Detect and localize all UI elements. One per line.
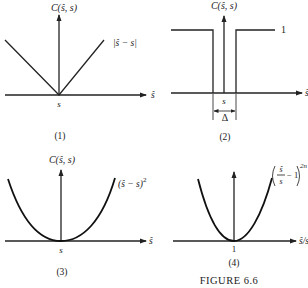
panel-label: (3): [56, 267, 67, 278]
x-tick-label: s: [59, 245, 63, 255]
step-right: [236, 30, 275, 93]
figure-caption: FIGURE 6.6: [200, 275, 259, 286]
panel-4: ŝ s − 1 2n ŝ/s 1 (4): [173, 162, 308, 269]
panel-label: (2): [219, 132, 230, 143]
curve-label: (ŝ − s)2: [118, 176, 147, 190]
y-axis-label: C(ŝ, s): [49, 154, 76, 166]
x-tick-label: s: [57, 99, 61, 109]
x-axis-label: ŝ/s: [299, 236, 308, 246]
panel-label: (4): [228, 258, 239, 269]
y-axis-label: C(ŝ, s): [51, 2, 78, 14]
minus-one: − 1: [287, 170, 298, 180]
x-axis-label: ŝ: [149, 236, 153, 246]
power-curve: [198, 178, 272, 241]
panel-label: (1): [54, 131, 65, 142]
left-paren: [273, 166, 276, 186]
panel-1: C(ŝ, s) |ŝ − s| ŝ s (1): [5, 2, 155, 142]
panel-3: C(ŝ, s) (ŝ − s)2 ŝ s (3): [5, 154, 153, 278]
abs-value-curve: [5, 40, 104, 95]
exponent: 2n: [300, 162, 308, 170]
figure-6-6: C(ŝ, s) |ŝ − s| ŝ s (1) C(ŝ, s) 1 ŝ s Δ …: [0, 0, 308, 288]
delta-label: Δ: [222, 112, 229, 123]
level-label: 1: [281, 24, 286, 35]
fraction-numerator: ŝ: [279, 165, 283, 174]
step-left: [171, 30, 213, 93]
curve-label: ŝ s − 1 2n: [273, 162, 308, 186]
x-tick-label: 1: [232, 244, 237, 254]
x-tick-label: s: [222, 96, 226, 106]
x-axis-label: ŝ: [305, 88, 308, 98]
fraction-denominator: s: [279, 177, 282, 186]
x-axis-label: ŝ: [151, 90, 155, 100]
curve-label: |ŝ − s|: [113, 38, 137, 48]
panel-2: C(ŝ, s) 1 ŝ s Δ (2): [171, 0, 308, 143]
y-axis-label: C(ŝ, s): [211, 0, 238, 12]
